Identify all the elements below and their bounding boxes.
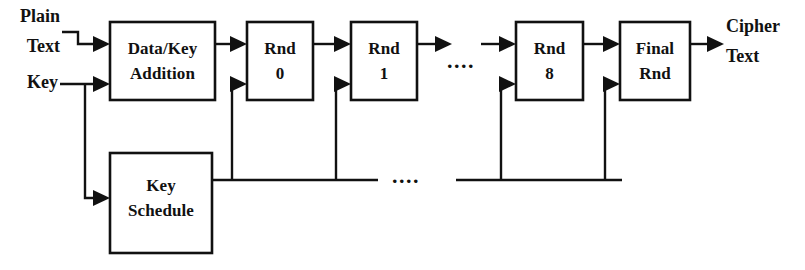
block-final-round[interactable]: Final Rnd: [620, 22, 690, 100]
block-round-8-label-line2: 8: [545, 64, 554, 83]
block-final-round-label-line1: Final: [636, 39, 674, 58]
wire-keybus-to-rnd1: [334, 76, 351, 180]
plaintext-label-line1: Plain: [20, 6, 60, 26]
wire-plaintext-to-datakey: [62, 32, 110, 52]
block-round-0-label-line2: 0: [276, 64, 285, 83]
block-round-0-label-line1: Rnd: [264, 39, 296, 58]
block-data-key-addition[interactable]: Data/Key Addition: [110, 22, 215, 100]
plaintext-label-line2: Text: [27, 36, 60, 56]
block-round-8-label-line1: Rnd: [534, 39, 566, 58]
wire-keybus-to-rnd8: [499, 76, 516, 180]
wire-keybus-to-finalrnd: [603, 76, 620, 180]
block-round-1-label-line2: 1: [380, 64, 389, 83]
ciphertext-label-line2: Text: [726, 46, 759, 66]
block-round-8[interactable]: Rnd 8: [516, 22, 583, 100]
ciphertext-label-line1: Cipher: [726, 16, 780, 36]
block-key-schedule-label-line2: Schedule: [128, 201, 194, 220]
wire-key-to-keyschedule: [85, 84, 110, 206]
block-round-1-label-line1: Rnd: [368, 39, 400, 58]
aes-block-diagram: Data/Key Addition Rnd 0 Rnd 1 Rnd 8 Fina…: [0, 0, 805, 270]
wire-rnd8-to-finalrnd: [583, 36, 620, 52]
block-round-1[interactable]: Rnd 1: [351, 22, 417, 100]
diagram-canvas: Data/Key Addition Rnd 0 Rnd 1 Rnd 8 Fina…: [0, 0, 805, 270]
wire-finalrnd-to-ciphertext: [690, 36, 724, 52]
block-data-key-addition-label-line1: Data/Key: [128, 39, 198, 58]
key-bus-ellipsis: ....: [392, 163, 420, 188]
block-final-round-label-line2: Rnd: [639, 64, 671, 83]
wire-rnd0-to-rnd1: [313, 36, 351, 52]
block-round-0[interactable]: Rnd 0: [247, 22, 313, 100]
data-path-ellipsis: ....: [447, 48, 475, 73]
block-key-schedule-label-line1: Key: [146, 176, 176, 195]
wire-datakey-to-rnd0: [215, 36, 247, 52]
wire-ellipsis-to-rnd8: [481, 36, 516, 52]
wire-keybus-to-rnd0: [230, 76, 247, 180]
key-label: Key: [27, 72, 58, 92]
block-data-key-addition-label-line2: Addition: [130, 64, 195, 83]
block-key-schedule[interactable]: Key Schedule: [110, 153, 212, 253]
